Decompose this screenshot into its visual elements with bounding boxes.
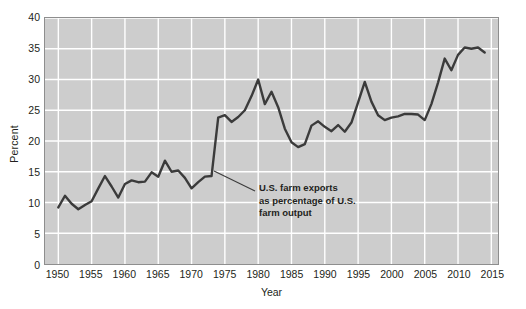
y-axis-tick-label: 5 — [4, 229, 40, 239]
y-axis-tick-label: 15 — [4, 167, 40, 177]
chart-figure: Percent 0510152025303540 195019551960196… — [0, 0, 526, 309]
y-axis-tick-label: 40 — [4, 12, 40, 22]
x-axis-tick-label: 2015 — [472, 268, 512, 280]
y-axis-tick-label: 35 — [4, 43, 40, 53]
x-axis-title: Year — [44, 286, 499, 298]
plot-area — [44, 17, 499, 265]
y-axis-tick-label: 30 — [4, 74, 40, 84]
y-axis-tick-label: 0 — [4, 260, 40, 270]
y-axis-tick-label: 20 — [4, 136, 40, 146]
series-callout-annotation: U.S. farm exportsas percentage of U.S.fa… — [259, 182, 356, 220]
data-series-line — [45, 18, 498, 264]
y-axis-tick-label: 10 — [4, 198, 40, 208]
x-axis-tick-labels: 1950195519601965197019751980198519901995… — [44, 268, 499, 284]
y-axis-tick-labels: 0510152025303540 — [0, 17, 40, 265]
annotation-line: as percentage of U.S. — [259, 195, 356, 208]
annotation-line: U.S. farm exports — [259, 182, 356, 195]
annotation-line: farm output — [259, 207, 356, 220]
y-axis-tick-label: 25 — [4, 105, 40, 115]
